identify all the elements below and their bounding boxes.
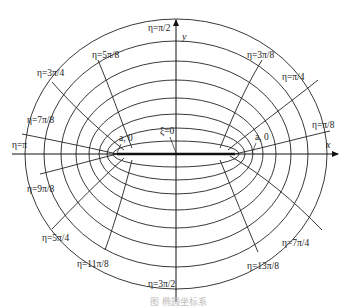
eta-label: η=7π/8 xyxy=(27,115,55,125)
eta-label: η=3π/2 xyxy=(148,279,176,289)
hyperbola-3pi-4 xyxy=(52,82,124,150)
elliptic-coordinate-diagram: x y ξ=0 a, 0 a, 0 η=π/2η=5π/8η=3π/8η=3π/… xyxy=(0,0,354,307)
eta-label: η=9π/8 xyxy=(27,184,55,194)
eta-label: η=π/2 xyxy=(148,23,171,33)
hyperbola-pi-8 xyxy=(235,131,330,154)
focus-left-label: a, 0 xyxy=(119,133,133,143)
eta-label: η=7π/4 xyxy=(282,238,310,248)
eta-label: η=3π/4 xyxy=(37,68,65,78)
hyperbola-pi-4 xyxy=(228,80,318,150)
y-axis-label: y xyxy=(181,31,187,42)
eta-label: η=π/4 xyxy=(282,72,305,82)
eta-labels: η=π/2η=5π/8η=3π/8η=3π/4η=π/4η=7π/8η=π/8η… xyxy=(12,23,335,289)
eta-label: η=13π/8 xyxy=(247,261,279,271)
eta-label: η=π/8 xyxy=(312,120,335,130)
xi-zero-label: ξ=0 xyxy=(160,126,175,137)
eta-label: η=5π/8 xyxy=(92,50,120,60)
eta-label: η=3π/8 xyxy=(247,50,275,60)
focus-right-label: a, 0 xyxy=(255,132,269,142)
x-axis-label: x xyxy=(325,139,331,150)
eta-label: η=5π/4 xyxy=(42,233,70,243)
eta-label: η=11π/8 xyxy=(77,259,109,269)
figure-caption: 图 椭圆坐标系 xyxy=(150,296,207,307)
eta-label: η=π xyxy=(12,140,27,150)
xi-zero-leader xyxy=(170,137,176,153)
hyperbola-7pi-8 xyxy=(22,134,117,154)
